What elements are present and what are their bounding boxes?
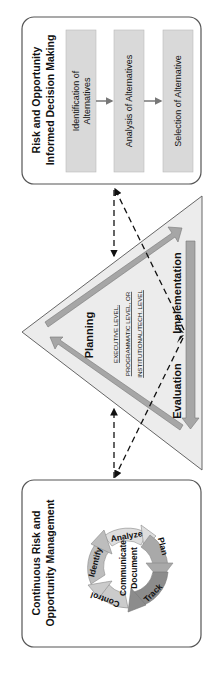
- decision-title-line2: Informed Decision Making: [44, 35, 56, 166]
- diagram-canvas: Risk and Opportunity Informed Decision M…: [0, 0, 209, 679]
- cycle-center-document: Document: [129, 547, 139, 589]
- decision-making-box: Risk and Opportunity Informed Decision M…: [22, 17, 201, 184]
- risk-management-box: Continuous Risk and Opportunity Manageme…: [22, 480, 201, 647]
- step-analysis-label: Analysis of Alternatives: [124, 54, 134, 147]
- step-identification-line1: Identification of: [71, 70, 81, 131]
- cycle-center-communicate: Communicate: [118, 540, 128, 596]
- level-line3: INSTITUTIONAL/TECH. LEVEL: [136, 290, 143, 378]
- management-title-line1: Continuous Risk and: [30, 511, 42, 616]
- management-title-line2: Opportunity Management: [44, 499, 56, 627]
- level-line1: EXECUTIVE LEVEL,: [112, 305, 119, 363]
- level-line2: PROGRAMMATIC LEVEL, OR: [124, 291, 131, 376]
- step-selection-label: Selection of Alternative: [173, 55, 183, 147]
- step-identification-line2: Alternatives: [82, 77, 92, 125]
- evaluation-label: Evaluation: [171, 363, 183, 419]
- planning-triangle: Planning EXECUTIVE LEVEL, PROGRAMMATIC L…: [22, 196, 202, 470]
- planning-label: Planning: [83, 312, 95, 358]
- implementation-label: Implementation: [171, 252, 183, 334]
- decision-title-line1: Risk and Opportunity: [30, 46, 42, 153]
